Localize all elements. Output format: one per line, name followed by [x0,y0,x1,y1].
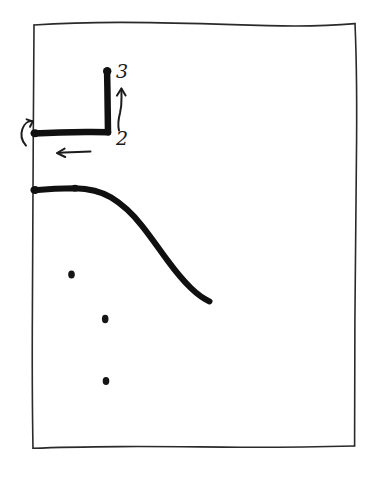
label-3: 3 [116,60,128,82]
curve-start-dot [30,186,39,194]
l-horizontal-segment [34,132,108,133]
node-dot-top [103,67,111,75]
node-dot-origin [31,129,40,137]
free-dot-1 [68,271,75,279]
free-dot-3 [103,377,110,385]
sketch-canvas-root: 3 2 [0,0,376,482]
canvas-background [0,0,376,482]
l-vertical-segment [107,73,108,133]
sketch-svg: 3 2 [0,0,376,482]
curve-knot-dot [72,185,79,192]
free-dot-2 [102,315,109,323]
label-2: 2 [115,127,128,149]
